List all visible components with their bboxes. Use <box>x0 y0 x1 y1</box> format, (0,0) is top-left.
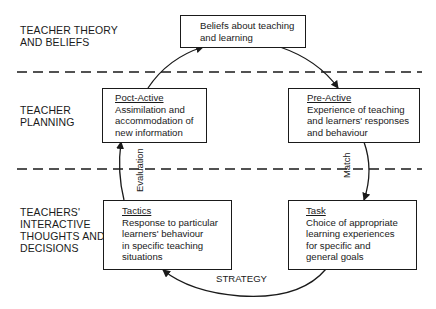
arrow-pre-to-task <box>364 142 369 200</box>
box-task-title: Task <box>306 205 416 217</box>
box-task: Task Choice of appropriate learning expe… <box>288 200 417 270</box>
arrow-tactics-to-post <box>120 142 124 200</box>
arrow-post-to-beliefs <box>148 47 203 88</box>
level-label-interactive: TEACHERS' INTERACTIVE THOUGHTS AND DECIS… <box>20 206 105 254</box>
level-label-planning: TEACHER PLANNING <box>20 104 74 128</box>
box-beliefs-text: Beliefs about teaching and learning <box>200 20 305 43</box>
box-beliefs: Beliefs about teaching and learning <box>180 15 306 48</box>
arrow-beliefs-to-pre <box>280 47 338 88</box>
label-match: Match <box>341 152 352 178</box>
label-evaluation: Evaluation <box>134 148 145 192</box>
box-pre-active-title: Pre-Active <box>307 92 419 104</box>
box-pre-active-text: Experience of teaching and learners' res… <box>307 104 419 139</box>
box-tactics-title: Tactics <box>122 205 231 217</box>
box-tactics-text: Response to particular learners' behavio… <box>122 217 231 263</box>
box-pre-active: Pre-Active Experience of teaching and le… <box>288 88 420 143</box>
box-post-active: Poct-Active Assimilation and accommodati… <box>102 88 207 143</box>
label-strategy: STRATEGY <box>216 273 267 284</box>
box-tactics: Tactics Response to particular learners'… <box>103 200 232 270</box>
box-post-active-text: Assimilation and accommodation of new in… <box>115 104 206 139</box>
box-task-text: Choice of appropriate learning experienc… <box>306 217 416 263</box>
box-post-active-title: Poct-Active <box>115 92 206 104</box>
level-label-theory: TEACHER THEORY AND BELIEFS <box>20 24 118 48</box>
